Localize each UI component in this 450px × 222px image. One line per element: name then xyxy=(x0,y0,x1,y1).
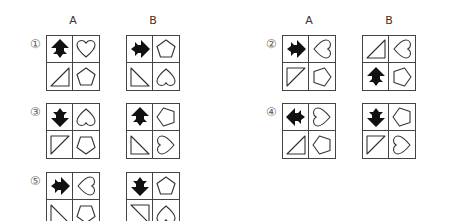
heart-icon xyxy=(390,133,414,157)
pentagon-icon xyxy=(310,65,334,89)
figure-b xyxy=(362,103,416,159)
triangle-icon xyxy=(128,65,152,89)
figure-cell xyxy=(363,131,389,158)
heart-icon xyxy=(154,133,178,157)
figure-cell xyxy=(309,36,335,63)
pentagon-icon xyxy=(154,37,178,61)
arrow-icon xyxy=(128,37,152,61)
figure-cell xyxy=(283,36,309,63)
triangle-icon xyxy=(364,37,388,61)
column-label-a: A xyxy=(46,14,100,27)
figure-cell xyxy=(127,131,153,158)
pentagon-icon xyxy=(74,133,98,157)
figure-cell xyxy=(47,63,73,90)
figure-cell xyxy=(47,131,73,158)
figure-a xyxy=(282,103,336,159)
pentagon-icon xyxy=(310,133,334,157)
column-label-b: B xyxy=(126,14,180,27)
triangle-icon xyxy=(284,65,308,89)
arrow-icon xyxy=(364,105,388,129)
figure-cell xyxy=(153,200,179,221)
figure-cell xyxy=(363,63,389,90)
triangle-icon xyxy=(48,133,72,157)
figure-cell xyxy=(73,36,99,63)
figure-b xyxy=(126,172,180,221)
figure-cell xyxy=(47,104,73,131)
figure-cell xyxy=(389,131,415,158)
problem-number: ④ xyxy=(264,105,278,119)
arrow-icon xyxy=(48,37,72,61)
pentagon-icon xyxy=(390,65,414,89)
figure-cell xyxy=(389,36,415,63)
figure-cell xyxy=(283,131,309,158)
pentagon-icon xyxy=(74,202,98,222)
arrow-icon xyxy=(48,105,72,129)
triangle-icon xyxy=(128,133,152,157)
arrow-icon xyxy=(284,105,308,129)
figure-cell xyxy=(363,104,389,131)
arrow-icon xyxy=(128,174,152,198)
triangle-icon xyxy=(48,65,72,89)
column-label-a: A xyxy=(282,14,336,27)
figure-cell xyxy=(283,104,309,131)
figure-cell xyxy=(153,36,179,63)
figure-a xyxy=(282,35,336,91)
figure-cell xyxy=(73,200,99,221)
column-label-b: B xyxy=(362,14,416,27)
figure-cell xyxy=(309,131,335,158)
figure-cell xyxy=(47,173,73,200)
heart-icon xyxy=(154,65,178,89)
arrow-icon xyxy=(364,65,388,89)
problem-number: ② xyxy=(264,37,278,51)
figure-cell xyxy=(127,36,153,63)
problem-number: ③ xyxy=(28,105,42,119)
triangle-icon xyxy=(284,133,308,157)
heart-icon xyxy=(154,202,178,222)
figure-a xyxy=(46,103,100,159)
figure-cell xyxy=(127,63,153,90)
figure-cell xyxy=(309,104,335,131)
figure-b xyxy=(126,35,180,91)
figure-cell xyxy=(127,104,153,131)
figure-b xyxy=(362,35,416,91)
figure-b xyxy=(126,103,180,159)
figure-a xyxy=(46,35,100,91)
figure-cell xyxy=(47,36,73,63)
figure-cell xyxy=(153,63,179,90)
figure-cell xyxy=(389,63,415,90)
heart-icon xyxy=(310,105,334,129)
figure-cell xyxy=(153,131,179,158)
triangle-icon xyxy=(364,133,388,157)
figure-cell xyxy=(73,131,99,158)
figure-cell xyxy=(153,104,179,131)
heart-icon xyxy=(310,37,334,61)
figure-cell xyxy=(389,104,415,131)
figure-cell xyxy=(127,200,153,221)
pentagon-icon xyxy=(74,65,98,89)
heart-icon xyxy=(74,37,98,61)
heart-icon xyxy=(74,105,98,129)
arrow-icon xyxy=(284,37,308,61)
figure-cell xyxy=(127,173,153,200)
problem-number: ① xyxy=(28,37,42,51)
figure-cell xyxy=(153,173,179,200)
figure-cell xyxy=(73,63,99,90)
figure-cell xyxy=(283,63,309,90)
heart-icon xyxy=(390,37,414,61)
figure-cell xyxy=(73,173,99,200)
figure-cell xyxy=(363,36,389,63)
pentagon-icon xyxy=(154,174,178,198)
figure-cell xyxy=(309,63,335,90)
triangle-icon xyxy=(48,202,72,222)
arrow-icon xyxy=(128,105,152,129)
figure-cell xyxy=(47,200,73,221)
triangle-icon xyxy=(128,202,152,222)
arrow-icon xyxy=(48,174,72,198)
pentagon-icon xyxy=(154,105,178,129)
figure-a xyxy=(46,172,100,221)
problem-number: ⑤ xyxy=(28,174,42,188)
pentagon-icon xyxy=(390,105,414,129)
figure-cell xyxy=(73,104,99,131)
heart-icon xyxy=(74,174,98,198)
